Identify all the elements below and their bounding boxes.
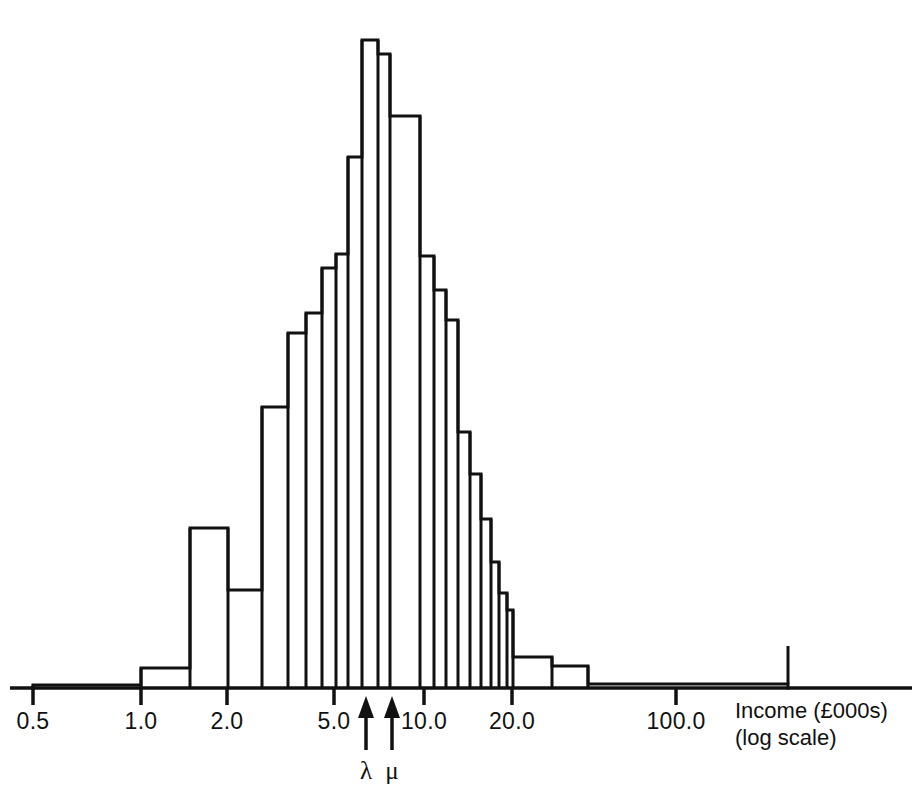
histogram-figure: 0.51.02.05.010.020.0100.0 λμ Income (£00… [0, 0, 919, 811]
x-axis-tick-label: 100.0 [646, 708, 705, 735]
annotation-arrow-head [358, 696, 374, 718]
x-axis-title-line1: Income (£000s) [735, 697, 888, 724]
annotation-arrow-head [384, 696, 400, 718]
histogram-bars [33, 40, 788, 688]
histogram-outline [33, 40, 788, 688]
annotation-arrows [358, 696, 400, 750]
x-axis-title: Income (£000s) (log scale) [735, 697, 888, 751]
x-axis-tick-label: 5.0 [318, 708, 351, 735]
x-axis-tick-label: 20.0 [489, 708, 535, 735]
annotation-label-lambda: λ [360, 757, 372, 785]
x-axis-tick-label: 0.5 [17, 708, 50, 735]
annotation-label-mu: μ [385, 757, 398, 785]
x-axis-tick-label: 2.0 [211, 708, 244, 735]
x-axis-tick-label: 10.0 [401, 708, 447, 735]
x-axis-tick-label: 1.0 [125, 708, 158, 735]
histogram-plot [0, 0, 919, 811]
x-axis-title-line2: (log scale) [735, 724, 888, 751]
